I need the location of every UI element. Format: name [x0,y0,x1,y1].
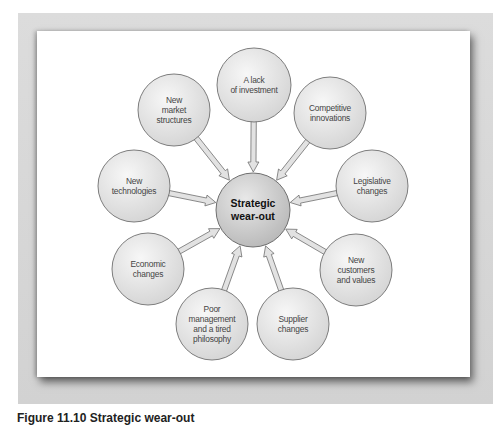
node-label-line: innovations [309,113,351,123]
node-label-new-technologies: Newtechnologies [98,150,170,222]
node-label-new-customers-and-values: Newcustomersand values [320,234,392,306]
node-label-line: management [189,314,236,324]
arrow-supplier-changes [264,246,284,292]
node-label-line: changes [278,324,308,334]
node-label-line: Poor [189,304,236,314]
arrow-lack-of-investment [248,121,259,172]
node-label-line: market [157,105,192,115]
node-label-line: changes [353,186,390,196]
node-label-line: changes [130,269,165,279]
node-label-lack-of-investment: A lackof investment [217,48,291,122]
figure-caption: Figure 11.10 Strategic wear-out [17,411,194,425]
node-label-line: philosophy [189,334,236,344]
arrow-legislative-changes [290,190,338,206]
center-node-label: Strategic wear-out [216,173,290,247]
node-label-line: and a tired [189,324,236,334]
node-label-line: New [112,176,157,186]
node-label-line: Competitive [309,103,351,113]
node-label-line: Economic [130,259,165,269]
node-label-line: Supplier [278,314,308,324]
node-label-line: of investment [230,85,277,95]
node-label-line: A lack [230,75,277,85]
arrow-new-technologies [168,190,216,206]
center-label-line-2: wear-out [231,210,276,223]
node-label-economic-changes: Economicchanges [112,233,184,305]
node-label-supplier-changes: Supplierchanges [257,288,329,360]
node-label-line: technologies [112,186,157,196]
arrow-poor-management [221,246,242,292]
node-label-poor-management: Poormanagementand a tiredphilosophy [176,288,248,360]
node-label-line: New [157,95,192,105]
center-label-line-1: Strategic [231,197,276,210]
node-label-new-market-structures: Newmarketstructures [138,74,210,146]
node-label-competitive-innovations: Competitiveinnovations [294,77,366,149]
node-label-line: New [337,255,376,265]
node-label-legislative-changes: Legislativechanges [336,150,408,222]
node-label-line: and values [337,275,376,285]
node-label-line: structures [157,115,192,125]
node-label-line: Legislative [353,176,390,186]
node-label-line: customers [337,265,376,275]
